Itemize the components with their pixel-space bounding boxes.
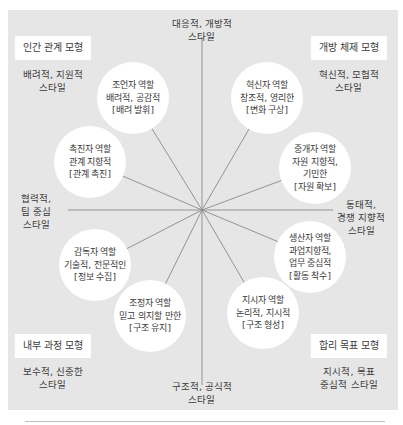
role-bubble-facilitator: 촉진자 역할 관계 지향적 [관계 촉진] [54, 126, 126, 198]
role-trait: 과업지향적, [289, 245, 332, 258]
role-trait: 논리적, 지시적 [236, 307, 290, 320]
role-title: 조언자 역할 [112, 79, 155, 92]
role-title: 촉진자 역할 [69, 143, 112, 156]
role-bubble-producer: 생산자 역할 과업지향적, 업무 중심적 [활동 착수] [274, 221, 346, 293]
role-focus: [구조 형성] [242, 319, 284, 332]
role-focus: [배려 발휘] [112, 104, 154, 117]
model-style-human-relations: 배려적, 지원적 스타일 [23, 68, 83, 94]
role-trait: 자원 지향적, [292, 156, 338, 169]
role-bubble-innovator: 혁신자 역할 창조적, 영리한 [변화 구상] [231, 62, 303, 134]
model-style-open-system: 혁신적, 모험적 스타일 [319, 68, 379, 94]
model-box-open-system: 개방 체제 모형 [311, 36, 387, 60]
role-title: 중개자 역할 [294, 143, 337, 156]
model-box-rational-goal: 합리 목표 모형 [311, 334, 387, 358]
role-bubble-monitor: 감독자 역할 기술적, 전문적인 [정보 수집] [59, 229, 131, 301]
axis-label-left-line1: 협력적, [21, 192, 51, 205]
role-focus: [관계 촉진] [69, 168, 111, 181]
model-style-rational-goal: 지시적, 목표 중심적 스타일 [320, 365, 377, 391]
axis-label-top: 대응적, 개방적 스타일 [172, 17, 232, 43]
role-trait: 기술적, 전문적인 [64, 259, 126, 272]
style-line2: 스타일 [23, 378, 83, 391]
role-trait: 창조적, 영리한 [240, 92, 294, 105]
role-title: 지시자 역할 [242, 294, 285, 307]
role-bubble-director: 지시자 역할 논리적, 지시적 [구조 형성] [227, 277, 299, 349]
role-trait: 기민한 [303, 168, 327, 181]
role-title: 생산자 역할 [289, 232, 332, 245]
role-trait: 업무 중심적 [289, 257, 332, 270]
role-title: 조정자 역할 [129, 297, 172, 310]
axis-label-top-line2: 스타일 [172, 30, 232, 43]
role-focus: [활동 착수] [289, 270, 331, 283]
model-box-internal-process: 내부 과정 모형 [15, 334, 91, 358]
style-line1: 배려적, 지원적 [23, 68, 83, 81]
style-line1: 보수적, 신중한 [23, 365, 83, 378]
style-line2: 스타일 [23, 81, 83, 94]
axis-label-left-line2: 팀 중심 [21, 205, 51, 218]
role-bubble-advisor: 조언자 역할 배려적, 공감적 [배려 발휘] [97, 62, 169, 134]
role-focus: [구조 유지] [129, 322, 171, 335]
axis-label-left: 협력적, 팀 중심 스타일 [21, 192, 51, 231]
axis-label-bottom-line1: 구조적, 공식적 [172, 380, 232, 393]
style-line1: 지시적, 목표 [320, 365, 377, 378]
axis-label-right-line3: 스타일 [337, 224, 385, 237]
model-style-internal-process: 보수적, 신중한 스타일 [23, 365, 83, 391]
axis-label-bottom-line2: 스타일 [172, 393, 232, 406]
role-trait: 믿고 의지할 만한 [119, 310, 181, 323]
role-bubble-broker: 중개자 역할 자원 지향적, 기민한 [자원 확보] [279, 132, 351, 204]
axis-label-right: 동태적, 경쟁 지향적 스타일 [337, 198, 385, 237]
axis-label-left-line3: 스타일 [21, 218, 51, 231]
role-trait: 관계 지향적 [69, 156, 112, 169]
role-title: 감독자 역할 [74, 246, 117, 259]
role-trait: 배려적, 공감적 [106, 92, 160, 105]
role-focus: [정보 수집] [74, 271, 116, 284]
axis-label-right-line1: 동태적, [337, 198, 385, 211]
axis-label-right-line2: 경쟁 지향적 [337, 211, 385, 224]
bottom-divider [25, 421, 385, 422]
role-focus: [자원 확보] [294, 181, 336, 194]
axis-label-bottom: 구조적, 공식적 스타일 [172, 380, 232, 406]
style-line2: 스타일 [319, 81, 379, 94]
axis-label-top-line1: 대응적, 개방적 [172, 17, 232, 30]
role-title: 혁신자 역할 [246, 79, 289, 92]
style-line1: 혁신적, 모험적 [319, 68, 379, 81]
style-line2: 중심적 스타일 [320, 378, 377, 391]
role-focus: [변화 구상] [246, 104, 288, 117]
role-bubble-coordinator: 조정자 역할 믿고 의지할 만한 [구조 유지] [114, 280, 186, 352]
model-box-human-relations: 인간 관계 모형 [15, 36, 91, 60]
